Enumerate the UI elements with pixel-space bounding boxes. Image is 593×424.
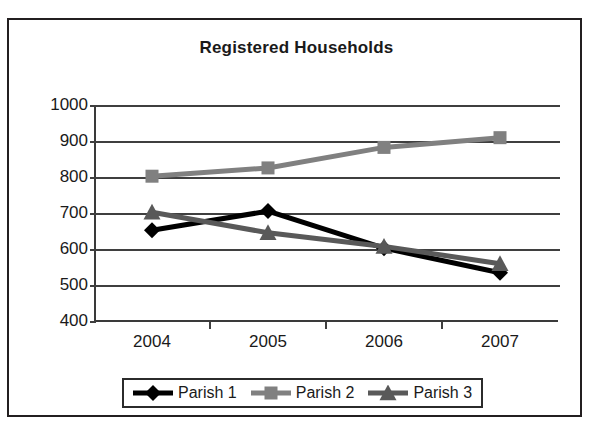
data-point-marker	[494, 131, 507, 144]
data-point-marker	[144, 222, 160, 238]
series-parish-2	[146, 131, 507, 183]
x-axis-tick-label: 2007	[481, 332, 519, 352]
series-line	[152, 212, 500, 263]
y-axis-tick-label: 900	[18, 131, 88, 151]
x-axis-tick-label: 2004	[133, 332, 171, 352]
y-axis-tick-label: 800	[18, 167, 88, 187]
x-axis-tick	[209, 322, 211, 329]
series-layer	[94, 106, 558, 322]
legend-entry[interactable]: Parish 1	[133, 384, 237, 402]
x-axis-tick	[325, 322, 327, 329]
data-point-marker	[145, 385, 161, 401]
x-axis-tick	[441, 322, 443, 329]
series-line	[152, 138, 500, 177]
x-axis-tick-label: 2005	[249, 332, 287, 352]
legend-square-icon	[251, 385, 291, 401]
data-point-marker	[260, 203, 276, 219]
data-point-marker	[378, 141, 391, 154]
legend-label: Parish 1	[178, 384, 237, 402]
x-axis-tick-label: 2006	[365, 332, 403, 352]
y-axis-tick-label: 700	[18, 203, 88, 223]
x-axis-ticks	[94, 322, 558, 330]
data-point-marker	[264, 387, 277, 400]
chart-legend: Parish 1Parish 2Parish 3	[122, 378, 483, 408]
chart-title: Registered Households	[0, 38, 593, 58]
legend-label: Parish 2	[296, 384, 355, 402]
y-axis-tick-label: 1000	[18, 95, 88, 115]
y-axis-tick-label: 600	[18, 239, 88, 259]
y-axis-labels: 4005006007008009001000	[12, 106, 88, 322]
data-point-marker	[262, 161, 275, 174]
legend-entry[interactable]: Parish 2	[251, 384, 355, 402]
legend-triangle-icon	[368, 385, 408, 401]
legend-entry[interactable]: Parish 3	[368, 384, 472, 402]
y-axis-tick-label: 400	[18, 311, 88, 331]
legend-diamond-icon	[133, 385, 173, 401]
x-axis-labels: 2004200520062007	[94, 332, 558, 358]
y-axis-tick-label: 500	[18, 275, 88, 295]
data-point-marker	[146, 170, 159, 183]
chart-figure: Registered Households 400500600700800900…	[0, 0, 593, 424]
legend-label: Parish 3	[413, 384, 472, 402]
